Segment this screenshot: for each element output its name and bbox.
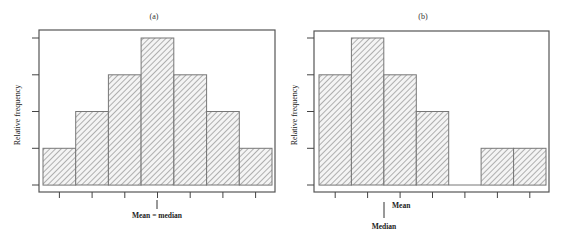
panel-a-title: (a) xyxy=(150,12,159,21)
panel-b: (b) Relative frequency Mean Median xyxy=(290,12,549,231)
panel-b-title: (b) xyxy=(418,12,428,21)
figure: (a) Relative frequency Mean = median (b)… xyxy=(0,0,562,242)
histogram-bar xyxy=(351,38,383,185)
histogram-bar xyxy=(141,38,174,185)
histogram-bar xyxy=(481,148,513,185)
panel-b-x-ticks xyxy=(335,192,530,198)
histogram-bar xyxy=(319,75,351,185)
panel-a-x-ticks xyxy=(59,192,255,198)
histogram-bar xyxy=(76,112,109,186)
histogram-bar xyxy=(384,75,416,185)
panel-a-y-axis-label: Relative frequency xyxy=(13,85,22,146)
panel-a: (a) Relative frequency Mean = median xyxy=(13,12,275,220)
histogram-bar xyxy=(174,75,207,185)
panel-b-y-axis-label: Relative frequency xyxy=(290,85,299,146)
panel-a-mean-median-label: Mean = median xyxy=(132,211,183,220)
histogram-bar xyxy=(514,148,546,185)
panel-a-bars xyxy=(43,38,272,185)
histogram-bar xyxy=(207,112,240,186)
panel-b-mean-label: Mean xyxy=(392,201,411,210)
panel-b-bars xyxy=(319,38,546,185)
histogram-bar xyxy=(239,148,272,185)
panel-b-median-label: Median xyxy=(372,222,397,231)
histogram-bar xyxy=(108,75,141,185)
panel-b-y-ticks xyxy=(307,38,314,185)
panel-a-y-ticks xyxy=(32,38,39,185)
histogram-bar xyxy=(43,148,76,185)
histogram-bar xyxy=(416,112,448,186)
